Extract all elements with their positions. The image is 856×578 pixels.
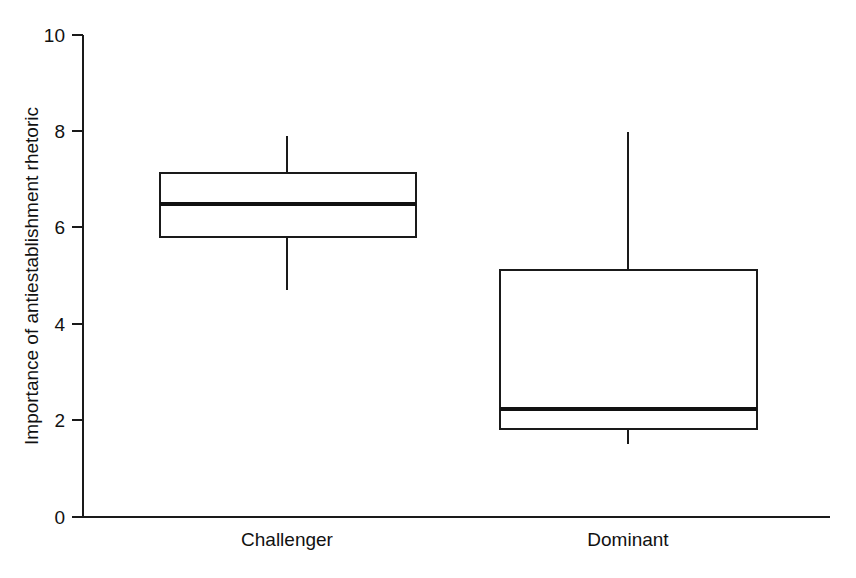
- box-challenger: [160, 136, 416, 290]
- y-tick-label-0: 0: [54, 507, 65, 528]
- y-tick-label-6: 6: [54, 217, 65, 238]
- boxplot-canvas: Importance of antiestablishment rhetoric…: [0, 0, 856, 578]
- y-axis-ticks: 0 2 4 6 8 10: [44, 25, 83, 528]
- y-tick-label-8: 8: [54, 121, 65, 142]
- boxplot-figure: Importance of antiestablishment rhetoric…: [0, 0, 856, 578]
- x-category-label-challenger: Challenger: [241, 529, 334, 550]
- y-tick-label-4: 4: [54, 314, 65, 335]
- box-body-dominant: [500, 270, 757, 429]
- x-category-label-dominant: Dominant: [587, 529, 669, 550]
- y-tick-label-10: 10: [44, 25, 65, 46]
- box-dominant: [500, 132, 757, 444]
- y-axis-label: Importance of antiestablishment rhetoric: [21, 107, 42, 445]
- y-tick-label-2: 2: [54, 410, 65, 431]
